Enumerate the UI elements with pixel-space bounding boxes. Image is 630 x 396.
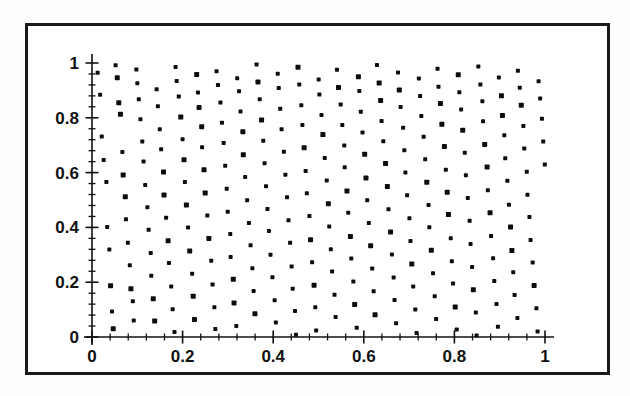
figure-canvas: 00.20.40.60.8100.20.40.60.81 — [0, 0, 630, 396]
plot-frame-border — [25, 23, 610, 375]
